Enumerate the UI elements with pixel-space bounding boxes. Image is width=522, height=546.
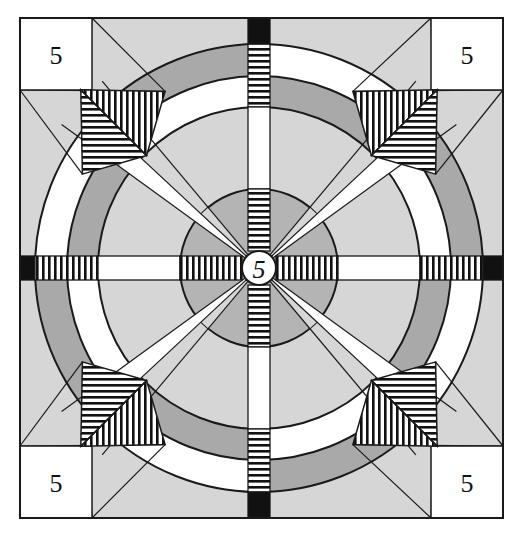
striped-bar-left-outer xyxy=(35,256,98,280)
corner-label-top-right: 5 xyxy=(461,41,474,70)
center-marker: 5 xyxy=(242,251,276,285)
striped-bar-top-outer xyxy=(248,44,270,107)
white-bar-bottom xyxy=(248,347,270,429)
diagram-canvas: 5555 5 xyxy=(0,0,522,546)
black-block-bottom xyxy=(248,492,270,518)
striped-bar-right-inner xyxy=(276,256,338,280)
white-bar-top xyxy=(248,107,270,189)
center-label: 5 xyxy=(253,255,266,284)
white-bar-left xyxy=(98,256,180,280)
corner-label-bottom-left: 5 xyxy=(50,469,63,498)
striped-bar-top-inner xyxy=(248,189,270,251)
test-pattern-figure: 5555 5 xyxy=(0,0,522,546)
striped-bar-bottom-inner xyxy=(248,285,270,347)
striped-bar-right-outer xyxy=(420,256,483,280)
black-block-top xyxy=(248,18,270,44)
striped-bar-bottom-outer xyxy=(248,429,270,492)
black-block-left xyxy=(20,256,35,280)
striped-bar-left-inner xyxy=(180,256,242,280)
corner-label-bottom-right: 5 xyxy=(461,469,474,498)
corner-label-top-left: 5 xyxy=(50,41,63,70)
black-block-right xyxy=(483,256,503,280)
white-bar-right xyxy=(338,256,420,280)
